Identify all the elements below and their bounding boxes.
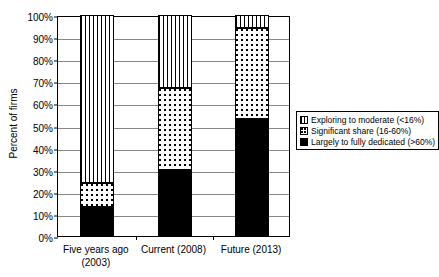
bar-1 <box>80 15 114 236</box>
legend-swatch-icon <box>300 138 308 146</box>
bar-segment <box>235 15 269 28</box>
plot-area: 0%10%20%30%40%50%60%70%80%90%100% <box>57 16 290 237</box>
x-tick-mark <box>136 236 137 240</box>
legend-label: Significant share (16-60%) <box>311 126 411 136</box>
y-tick-mark <box>54 238 58 239</box>
bar-segment <box>80 183 114 207</box>
y-tick-label: 90% <box>9 34 53 45</box>
legend-label: Exploring to moderate (<16%) <box>311 115 424 125</box>
y-tick-label: 10% <box>9 210 53 221</box>
y-tick-mark <box>54 39 58 40</box>
chart-legend: Exploring to moderate (<16%)Significant … <box>296 111 439 150</box>
bar-3 <box>235 15 269 236</box>
x-label-line: (2003) <box>46 256 146 269</box>
y-tick-label: 20% <box>9 188 53 199</box>
y-tick-mark <box>54 127 58 128</box>
y-tick-label: 80% <box>9 56 53 67</box>
legend-item-3: Largely to fully dedicated (>60%) <box>300 136 435 147</box>
legend-item-1: Exploring to moderate (<16%) <box>300 114 435 125</box>
y-tick-label: 0% <box>9 233 53 244</box>
bar-segment <box>158 170 192 236</box>
y-tick-label: 70% <box>9 78 53 89</box>
bar-segment <box>158 15 192 88</box>
x-tick-mark <box>213 236 214 240</box>
y-tick-mark <box>54 83 58 84</box>
legend-swatch-icon <box>300 116 308 124</box>
bar-segment <box>158 88 192 170</box>
bar-segment <box>80 207 114 236</box>
y-tick-label: 60% <box>9 100 53 111</box>
legend-swatch-icon <box>300 127 308 135</box>
x-label-line: Future (2013) <box>201 243 301 256</box>
y-tick-label: 30% <box>9 166 53 177</box>
x-axis-label-3: Future (2013) <box>201 243 301 256</box>
legend-item-2: Significant share (16-60%) <box>300 125 435 136</box>
y-tick-mark <box>54 215 58 216</box>
bar-segment <box>235 119 269 236</box>
y-tick-mark <box>54 171 58 172</box>
y-tick-mark <box>54 149 58 150</box>
bar-2 <box>158 15 192 236</box>
legend-label: Largely to fully dedicated (>60%) <box>311 137 435 147</box>
y-tick-mark <box>54 193 58 194</box>
y-tick-label: 100% <box>9 12 53 23</box>
bar-segment <box>235 28 269 119</box>
y-tick-mark <box>54 105 58 106</box>
y-tick-label: 40% <box>9 144 53 155</box>
bar-segment <box>80 15 114 183</box>
y-tick-label: 50% <box>9 122 53 133</box>
y-tick-mark <box>54 61 58 62</box>
y-tick-mark <box>54 17 58 18</box>
